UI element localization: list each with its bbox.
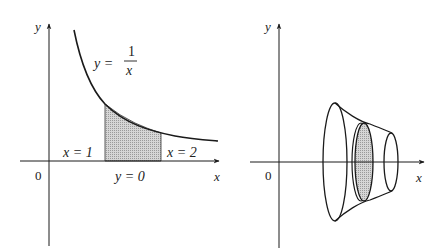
origin-label: 0	[265, 168, 272, 183]
curve-label-denominator: x	[125, 63, 133, 78]
right-graph: y x 0	[250, 19, 424, 248]
bound-bottom-label: y = 0	[113, 169, 145, 184]
y-axis-label: y	[263, 19, 271, 34]
left-graph: y x 0 y = 1 x x = 1 x = 2 y = 0	[20, 19, 220, 246]
y-axis-label: y	[33, 19, 41, 34]
x-axis-label: x	[213, 169, 220, 184]
curve-reciprocal	[74, 30, 218, 141]
curve-label-lhs: y =	[92, 56, 113, 71]
bound-left-label: x = 1	[62, 145, 93, 160]
shaded-region	[105, 104, 161, 161]
figure: y x 0 y = 1 x x = 1 x = 2 y = 0 y x 0	[0, 0, 427, 249]
x-axis-label: x	[415, 170, 422, 185]
bound-right-label: x = 2	[166, 145, 197, 160]
curve-label-numerator: 1	[128, 44, 135, 59]
origin-label: 0	[35, 168, 42, 183]
